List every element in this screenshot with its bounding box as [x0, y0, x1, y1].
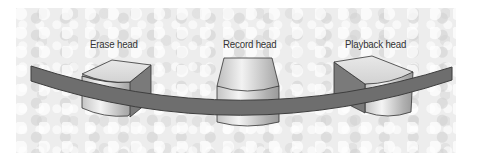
tape-head-diagram — [0, 0, 480, 155]
erase-head-label: Erase head — [90, 38, 138, 50]
record-head — [217, 58, 279, 126]
record-head-label: Record head — [223, 38, 277, 50]
playback-head-label: Playback head — [345, 38, 406, 50]
